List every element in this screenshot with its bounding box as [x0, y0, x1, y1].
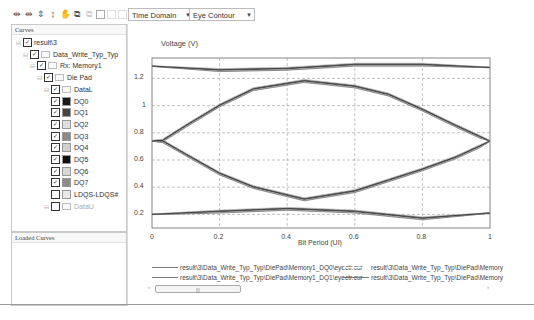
y-tick-label: 0.4 [134, 182, 144, 189]
x-axis-label: Bit Period (UI) [298, 239, 342, 246]
tree-item-label: Data_Write_Typ_Typ [53, 51, 118, 58]
zoom-y-icon[interactable]: ⇕ [36, 9, 46, 19]
color-swatch [62, 120, 71, 129]
tree-item[interactable]: ✓DQ7 [51, 177, 88, 188]
expand-icon[interactable]: ⊟ [44, 203, 51, 210]
disabled-box-icon[interactable] [107, 10, 116, 19]
legend-swatch [152, 277, 178, 278]
scroll-grip-icon: ||| [196, 287, 200, 293]
legend-item: result\3\Data_Write_Typ_Typ\DiePad\Memor… [152, 264, 363, 271]
view-select-value: Eye Contour [193, 11, 235, 20]
tree-item[interactable]: ✓DQ2 [51, 119, 88, 130]
zoom-x-icon[interactable]: ⇹ [12, 9, 22, 19]
checkbox[interactable]: ✓ [51, 120, 60, 129]
tree-item[interactable]: ✓DQ6 [51, 166, 88, 177]
y-tick-label: 1 [142, 101, 146, 108]
tree-item[interactable]: LDQS-LDQS# [51, 189, 118, 200]
legend-swatch [152, 267, 178, 268]
checkbox[interactable] [51, 202, 60, 211]
checkbox[interactable]: ✓ [51, 97, 60, 106]
view-select[interactable]: Eye Contour ▼ [189, 8, 255, 21]
checkbox[interactable]: ✓ [51, 108, 60, 117]
expand-icon[interactable]: ⊟ [30, 62, 37, 69]
zoom-y-alt-icon[interactable]: ↨ [48, 9, 58, 19]
tree-item-label: DataL [74, 86, 93, 93]
legend-label: result\3\Data_Write_Typ_Typ\DiePad\Memor… [180, 264, 363, 271]
x-tick-label: 0.8 [416, 233, 426, 240]
legend-label: result\3\Data_Write_Typ_Typ\DiePad\Memor… [180, 274, 363, 281]
x-tick-label: 0.6 [349, 233, 359, 240]
divider [0, 304, 534, 305]
checkbox[interactable]: ✓ [37, 61, 46, 70]
legend-item: result\3\Data_Write_Typ_Typ\DiePad\Memor… [343, 264, 503, 271]
tree-item[interactable]: ⊟✓DataL [44, 84, 93, 95]
scroll-right-arrow-icon[interactable]: › [487, 284, 489, 290]
tree-item-label: DQ3 [74, 133, 88, 140]
folder-icon [55, 74, 64, 81]
y-tick-label: 0.2 [134, 209, 144, 216]
folder-icon [62, 203, 71, 210]
checkbox[interactable]: ✓ [51, 167, 60, 176]
color-swatch [62, 132, 71, 141]
expand-icon[interactable]: ⊟ [23, 51, 30, 58]
checkbox[interactable]: ✓ [51, 178, 60, 187]
tree-item-label: LDQS-LDQS# [74, 191, 118, 198]
tree-item-label: result\3 [34, 39, 57, 46]
box-icon[interactable] [96, 10, 105, 19]
folder-icon [62, 86, 71, 93]
legend-label: result\3\Data_Write_Typ_Typ\DiePad\Memor… [371, 264, 503, 271]
legend-horizontal-scrollbar[interactable]: ||| [155, 285, 241, 293]
disabled-box-icon-2[interactable] [118, 10, 127, 19]
checkbox[interactable]: ✓ [51, 132, 60, 141]
copy-icon[interactable]: ⧉ [72, 9, 82, 19]
tree-item-label: Die Pad [67, 74, 92, 81]
tree-item-label: DQ4 [74, 144, 88, 151]
zoom-xy-icon[interactable]: ⇹ [24, 9, 34, 19]
tree-item[interactable]: ⊟✓Die Pad [37, 72, 92, 83]
checkbox[interactable]: ✓ [30, 50, 39, 59]
color-swatch [62, 143, 71, 152]
tree-item-label: DQ1 [74, 109, 88, 116]
checkbox[interactable]: ✓ [51, 143, 60, 152]
y-tick-label: 0.8 [134, 128, 144, 135]
legend-item: result\3\Data_Write_Typ_Typ\DiePad\Memor… [152, 274, 363, 281]
color-swatch [62, 155, 71, 164]
x-tick-label: 0.4 [281, 233, 291, 240]
scroll-left-arrow-icon[interactable]: ‹ [148, 284, 150, 290]
toolbar: ⇹ ⇹ ⇕ ↨ ✋ ⧉ ⧉ Time Domain ▼ Eye Contour … [0, 0, 534, 24]
y-tick-label: 1.2 [134, 73, 144, 80]
tree-item-label: Rx: Memory1 [60, 62, 102, 69]
domain-select-value: Time Domain [132, 11, 176, 20]
tree-item[interactable]: ✓DQ4 [51, 142, 88, 153]
checkbox[interactable]: ✓ [51, 155, 60, 164]
legend-item: result\3\Data_Write_Typ_Typ\DiePad\Memor… [343, 274, 503, 281]
tree-item[interactable]: ✓DQ1 [51, 107, 88, 118]
loaded-curves-title: Loaded Curves [12, 233, 126, 243]
checkbox[interactable]: ✓ [23, 38, 32, 47]
tree-item[interactable]: ⊟✓result\3 [16, 37, 57, 48]
paste-icon[interactable]: ⧉ [84, 9, 94, 19]
pan-hand-icon[interactable]: ✋ [60, 9, 70, 19]
tree-item[interactable]: ⊟✓Rx: Memory1 [30, 60, 102, 71]
expand-icon[interactable]: ⊟ [44, 86, 51, 93]
tree-item[interactable]: ⊟✓Data_Write_Typ_Typ [23, 49, 118, 60]
tree-item-label: DQ6 [74, 168, 88, 175]
tree-item[interactable]: ⊟DataU [44, 201, 94, 212]
legend-swatch [343, 267, 369, 268]
domain-select[interactable]: Time Domain ▼ [128, 8, 194, 21]
splitter[interactable] [127, 24, 128, 306]
tree-item-label: DQ5 [74, 156, 88, 163]
checkbox[interactable] [51, 190, 60, 199]
expand-icon[interactable]: ⊟ [37, 74, 44, 81]
checkbox[interactable]: ✓ [51, 85, 60, 94]
tree-item[interactable]: ✓DQ5 [51, 154, 88, 165]
tree-item-label: DQ0 [74, 98, 88, 105]
tree-item[interactable]: ✓DQ3 [51, 131, 88, 142]
expand-icon[interactable]: ⊟ [16, 39, 23, 46]
tree-item[interactable]: ✓DQ0 [51, 96, 88, 107]
curves-panel: Curves ⊟✓result\3⊟✓Data_Write_Typ_Typ⊟✓R… [11, 24, 127, 232]
color-swatch [62, 167, 71, 176]
x-tick-label: 1 [488, 233, 492, 240]
checkbox[interactable]: ✓ [44, 73, 53, 82]
color-swatch [62, 178, 71, 187]
